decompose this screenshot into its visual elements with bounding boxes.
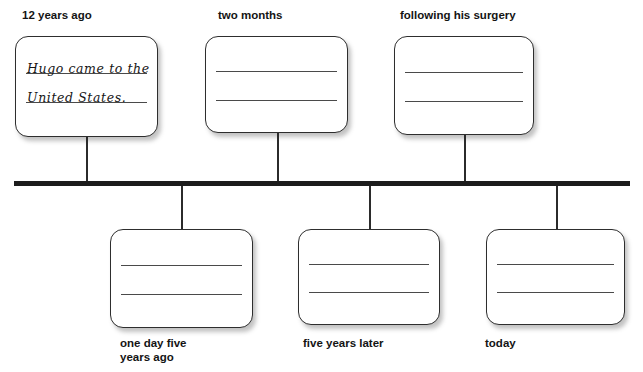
connector-stem-below-3 xyxy=(556,186,558,230)
rule-line-1 xyxy=(309,264,429,265)
caption-above-1: 12 years ago xyxy=(22,8,92,22)
connector-stem-above-1 xyxy=(86,137,88,182)
rule-line-2 xyxy=(309,292,429,293)
rule-line-2 xyxy=(405,101,523,102)
rule-line-2 xyxy=(497,292,614,293)
caption-above-2: two months xyxy=(218,8,283,22)
rule-line-1 xyxy=(121,265,242,266)
connector-stem-below-2 xyxy=(369,186,371,230)
caption-above-3: following his surgery xyxy=(400,8,516,22)
handwritten-text-line-2: United States. xyxy=(27,92,147,105)
note-card-above-3[interactable] xyxy=(394,36,534,135)
caption-below-2: five years later xyxy=(303,336,384,350)
note-card-below-3[interactable] xyxy=(486,229,625,325)
rule-line-1 xyxy=(497,264,614,265)
rule-line-1 xyxy=(216,71,337,72)
timeline-graphic-organizer: 12 years ago two months following his su… xyxy=(0,0,643,372)
connector-stem-above-2 xyxy=(277,133,279,182)
timeline-bar xyxy=(14,181,630,186)
rule-line-2 xyxy=(216,100,337,101)
rule-line-1 xyxy=(405,72,523,73)
connector-stem-below-1 xyxy=(181,186,183,230)
caption-below-3: today xyxy=(485,336,516,350)
note-card-above-1[interactable]: Hugo came to the United States. xyxy=(15,36,158,137)
handwritten-text-line-1: Hugo came to the xyxy=(27,63,147,76)
rule-line-2 xyxy=(121,294,242,295)
connector-stem-above-3 xyxy=(464,135,466,182)
note-card-below-1[interactable] xyxy=(110,229,253,328)
caption-below-1: one day five years ago xyxy=(120,336,186,364)
note-card-below-2[interactable] xyxy=(298,229,440,325)
note-card-above-2[interactable] xyxy=(205,36,348,133)
